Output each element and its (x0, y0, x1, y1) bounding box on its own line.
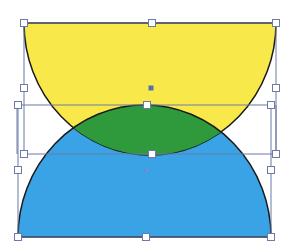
blue-handle-bottom-left[interactable] (15, 234, 22, 241)
yellow-handle-mid-left[interactable] (21, 85, 28, 92)
blue-handle-mid-right[interactable] (268, 167, 275, 174)
blue-pivot-marker[interactable]: × (144, 166, 149, 175)
yellow-handle-top-mid[interactable] (149, 20, 156, 27)
green-handle-top-mid[interactable] (144, 102, 151, 109)
green-handle-top-right[interactable] (268, 102, 275, 109)
yellow-center-marker[interactable] (149, 86, 154, 91)
green-handle-bottom-left[interactable] (21, 151, 28, 158)
yellow-handle-mid-right[interactable] (273, 85, 280, 92)
yellow-handle-top-right[interactable] (273, 20, 280, 27)
green-handle-top-left[interactable] (15, 102, 22, 109)
blue-handle-mid-left[interactable] (15, 167, 22, 174)
drawing-canvas[interactable]: × (0, 0, 283, 248)
blue-handle-bottom-right[interactable] (268, 234, 275, 241)
green-handle-bottom-mid[interactable] (149, 151, 156, 158)
green-handle-bottom-right[interactable] (273, 151, 280, 158)
blue-handle-bottom-mid[interactable] (143, 234, 150, 241)
yellow-handle-top-left[interactable] (21, 20, 28, 27)
